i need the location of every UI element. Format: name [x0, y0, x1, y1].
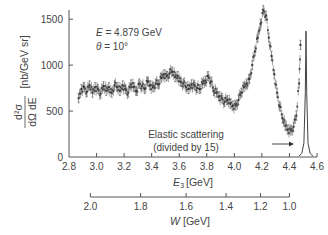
- marker: [272, 60, 274, 62]
- x-tick-label: 4.2: [255, 161, 269, 172]
- w-tick-label: 2.0: [83, 201, 97, 212]
- w-axis: 2.01.81.61.41.21.0: [83, 193, 296, 212]
- x-tick-label: 3.8: [200, 161, 214, 172]
- x-tick-label: 3.6: [172, 161, 186, 172]
- x-tick-label: 2.8: [62, 161, 76, 172]
- marker: [211, 81, 213, 83]
- angle-annotation: θ = 10°: [96, 41, 128, 52]
- x-axis-title: E3[GeV]: [173, 176, 213, 189]
- marker: [205, 82, 207, 84]
- y-tick-label: 1500: [41, 14, 64, 25]
- x-tick-label: 4.0: [227, 161, 241, 172]
- marker: [295, 115, 297, 117]
- marker: [81, 91, 83, 93]
- data-point: [251, 61, 253, 70]
- marker: [251, 64, 253, 66]
- w-tick-label: 1.4: [219, 201, 233, 212]
- elastic-label-line2: (divided by 15): [153, 142, 219, 153]
- w-axis-title: W[GeV]: [170, 215, 210, 227]
- data-point: [296, 102, 298, 111]
- elastic-label-line1: Elastic scattering: [148, 129, 224, 140]
- chart: 2.83.03.23.43.63.84.04.24.44.6 050010001…: [0, 0, 328, 235]
- marker: [275, 84, 277, 86]
- marker: [297, 90, 299, 92]
- data-point: [299, 40, 301, 49]
- x-tick-label: 3.0: [90, 161, 104, 172]
- w-tick-label: 1.6: [179, 201, 193, 212]
- marker: [280, 106, 282, 108]
- marker: [293, 126, 295, 128]
- marker: [277, 96, 279, 98]
- marker: [250, 72, 252, 74]
- elastic-peak: [299, 31, 313, 156]
- w-tick-label: 1.8: [134, 201, 148, 212]
- x-tick-label: 4.4: [282, 161, 296, 172]
- data-point: [299, 55, 301, 64]
- marker: [145, 87, 147, 89]
- x-ticks: 2.83.03.23.43.63.84.04.24.44.6: [62, 153, 324, 172]
- data-point: [299, 64, 301, 73]
- w-tick-label: 1.2: [254, 201, 268, 212]
- y-axis-title: d²σ dΩ dE [nb/GeV sr]: [12, 35, 38, 128]
- w-tick-label: 1.0: [282, 201, 296, 212]
- y-axis-title-denominator: dΩ dE: [26, 97, 38, 126]
- marker: [296, 106, 298, 108]
- marker: [91, 86, 93, 88]
- marker: [113, 90, 115, 92]
- marker: [261, 22, 263, 24]
- y-tick-label: 500: [46, 106, 63, 117]
- marker: [266, 19, 268, 21]
- marker: [200, 88, 202, 90]
- marker: [159, 83, 161, 85]
- y-axis-title-unit: [nb/GeV sr]: [18, 35, 30, 88]
- y-ticks: 050010001500: [41, 14, 73, 163]
- marker: [127, 92, 129, 94]
- marker: [257, 37, 259, 39]
- marker: [267, 29, 269, 31]
- marker: [259, 29, 261, 31]
- marker: [100, 93, 102, 95]
- marker: [298, 83, 300, 85]
- marker: [255, 48, 257, 50]
- marker: [283, 119, 285, 121]
- elastic-arrow: [272, 142, 294, 147]
- marker: [268, 37, 270, 39]
- marker: [299, 59, 301, 61]
- x-tick-label: 4.6: [310, 161, 324, 172]
- x-tick-label: 3.4: [145, 161, 159, 172]
- x-tick-label: 3.2: [117, 161, 131, 172]
- energy-annotation: E = 4.879 GeV: [96, 27, 162, 38]
- marker: [247, 84, 249, 86]
- marker: [86, 91, 88, 93]
- marker: [299, 68, 301, 70]
- data-layer: [78, 5, 302, 137]
- marker: [237, 99, 239, 101]
- marker: [241, 92, 243, 94]
- marker: [273, 73, 275, 75]
- marker: [299, 44, 301, 46]
- y-axis-title-numerator: d²σ: [12, 104, 24, 120]
- y-tick-label: 0: [57, 152, 63, 163]
- marker: [137, 91, 139, 93]
- elastic-peak-line: [299, 31, 313, 156]
- y-tick-label: 1000: [41, 60, 64, 71]
- marker: [270, 46, 272, 48]
